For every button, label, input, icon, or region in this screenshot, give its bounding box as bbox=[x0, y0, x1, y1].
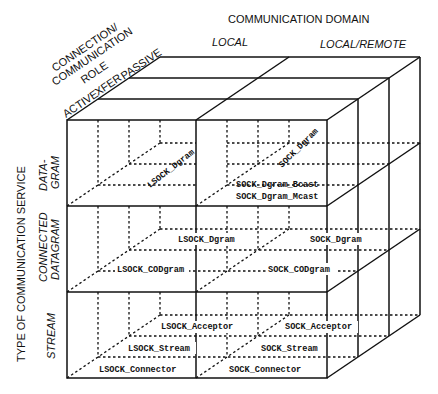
cell-connected-datagram-local-dgram: LSOCK_Dgram bbox=[178, 235, 235, 245]
cell-datagram-local: LSOCK_Dgram bbox=[146, 148, 197, 191]
svg-text:STREAM: STREAM bbox=[45, 312, 57, 359]
cube-solid-edges bbox=[67, 57, 420, 378]
svg-text:PASSIVE: PASSIVE bbox=[118, 46, 163, 82]
svg-text:GRAM: GRAM bbox=[49, 155, 61, 189]
z-value-passive: PASSIVE bbox=[118, 46, 163, 82]
svg-text:DATAGRAM: DATAGRAM bbox=[49, 218, 61, 280]
cell-stream-remote-acceptor: SOCK_Acceptor bbox=[285, 322, 352, 332]
x-axis-title: COMMUNICATION DOMAIN bbox=[228, 13, 370, 25]
svg-text:CONNECTED: CONNECTED bbox=[37, 212, 49, 282]
x-value-local: LOCAL bbox=[212, 36, 248, 48]
cell-stream-remote-connector: SOCK_Connector bbox=[229, 365, 301, 375]
y-value-stream: STREAM bbox=[45, 312, 57, 359]
cell-stream-local-acceptor: LSOCK_Acceptor bbox=[161, 322, 233, 332]
y-value-connected-datagram-line2: DATAGRAM bbox=[49, 218, 61, 280]
y-value-datagram: DATA- bbox=[37, 159, 49, 191]
cell-stream-local-connector: LSOCK_Connector bbox=[99, 365, 176, 375]
cell-stream-local-stream: LSOCK_Stream bbox=[128, 344, 190, 354]
cell-datagram-remote-bcast: SOCK_Dgram_Bcast bbox=[236, 180, 319, 190]
svg-text:LSOCK_Dgram: LSOCK_Dgram bbox=[146, 148, 197, 191]
cell-connected-datagram-local-codgram: LSOCK_CODgram bbox=[117, 265, 184, 275]
cell-datagram-remote-mcast: SOCK_Dgram_Mcast bbox=[236, 192, 319, 202]
cell-connected-datagram-remote-codgram: SOCK_CODgram bbox=[268, 265, 330, 275]
svg-text:TYPE OF COMMUNICATION SERVICE: TYPE OF COMMUNICATION SERVICE bbox=[15, 166, 27, 362]
svg-text:DATA-: DATA- bbox=[37, 159, 49, 191]
cell-connected-datagram-remote-dgram: SOCK_Dgram bbox=[310, 235, 362, 245]
y-value-datagram-line2: GRAM bbox=[49, 155, 61, 189]
y-value-connected-datagram: CONNECTED bbox=[37, 212, 49, 282]
y-axis-title: TYPE OF COMMUNICATION SERVICE bbox=[15, 166, 27, 362]
cube-hidden-edges bbox=[67, 120, 420, 378]
cell-stream-remote-stream: SOCK_Stream bbox=[261, 344, 318, 354]
x-value-local-remote: LOCAL/REMOTE bbox=[320, 38, 407, 50]
svg-text:ACTIVE: ACTIVE bbox=[60, 87, 100, 119]
z-value-active: ACTIVE bbox=[60, 87, 100, 119]
socket-taxonomy-cube-diagram: COMMUNICATION DOMAIN LOCAL LOCAL/REMOTE … bbox=[0, 0, 438, 394]
